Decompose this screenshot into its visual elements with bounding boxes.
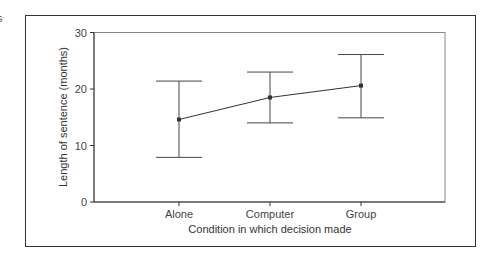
data-point-marker (268, 95, 272, 99)
y-tick-label: 10 (75, 140, 87, 152)
y-axis-title: Length of sentence (months) (57, 47, 69, 187)
y-ticks: 0102030 (75, 27, 94, 209)
chart: 0102030 AloneComputerGroup Condition in … (0, 0, 502, 261)
series-group (156, 55, 384, 158)
data-point-marker (177, 118, 181, 122)
x-tick-label: Alone (165, 208, 193, 220)
y-tick-label: 20 (75, 83, 87, 95)
x-ticks: AloneComputerGroup (165, 202, 376, 220)
x-axis-title: Condition in which decision made (188, 223, 351, 235)
data-point-marker (359, 84, 363, 88)
x-tick-label: Computer (246, 208, 295, 220)
y-tick-label: 30 (75, 27, 87, 39)
y-tick-label: 0 (81, 196, 87, 208)
x-tick-label: Group (346, 208, 377, 220)
